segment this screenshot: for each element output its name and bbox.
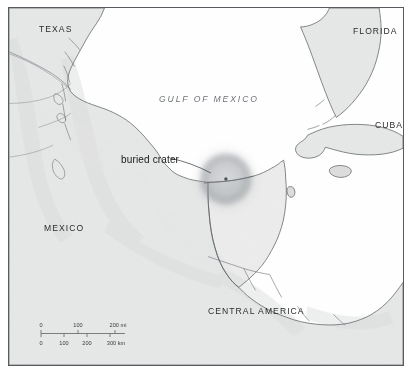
paper-grain xyxy=(9,8,403,365)
scale-km-tick-200: 200 xyxy=(82,340,91,346)
map-frame: TEXAS FLORIDA CUBA MEXICO CENTRAL AMERIC… xyxy=(8,7,404,366)
map-canvas xyxy=(9,8,403,365)
scale-km-tick-0: 0 xyxy=(39,340,42,346)
scale-mi-tick-0: 0 xyxy=(39,322,42,328)
scale-mi-tick-100: 100 xyxy=(73,322,82,328)
scale-mi-tick-200: 200 mi xyxy=(110,322,127,328)
scale-bar: 0 100 200 mi 0 100 200 xyxy=(38,318,134,350)
scale-km-tick-100: 100 xyxy=(59,340,68,346)
map-figure: TEXAS FLORIDA CUBA MEXICO CENTRAL AMERIC… xyxy=(0,0,412,374)
scale-bar-graphic: 0 100 200 mi 0 100 200 xyxy=(38,318,134,350)
scale-bar-rule xyxy=(41,330,125,337)
scale-km-tick-300: 300 km xyxy=(107,340,126,346)
